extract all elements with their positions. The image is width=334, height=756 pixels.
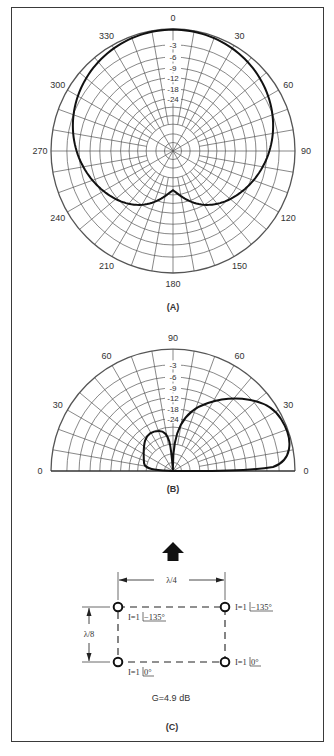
- svg-text:−135°: −135°: [251, 602, 272, 612]
- element-top-right: [221, 603, 230, 612]
- db-label: -18: [167, 85, 179, 94]
- angle-label: 30: [234, 31, 244, 41]
- db-label: -24: [167, 415, 179, 424]
- db-label: -24: [167, 95, 179, 104]
- angle-label: 180: [165, 279, 180, 289]
- horizontal-spacing-label: λ/4: [166, 575, 177, 585]
- angle-label: 240: [50, 213, 65, 223]
- svg-text:I=1: I=1: [235, 657, 247, 667]
- element-top-left: [114, 603, 123, 612]
- figure-canvas: 0306090120150180210240270300330 -3-6-9-1…: [0, 0, 334, 756]
- angle-label: 60: [234, 351, 244, 361]
- element-bottom-left: [114, 658, 123, 667]
- elevation-polar-plot: 030609060300 -3-6-9-12-18-24: [37, 333, 308, 476]
- db-label: -3: [169, 361, 177, 370]
- angle-label: 330: [99, 31, 114, 41]
- db-label: -9: [169, 384, 177, 393]
- svg-text:I=1: I=1: [128, 612, 140, 622]
- db-label: -12: [167, 74, 179, 83]
- db-label: -18: [167, 405, 179, 414]
- svg-text:0°: 0°: [251, 657, 259, 667]
- angle-label: 0: [170, 13, 175, 23]
- angle-label: 120: [281, 213, 296, 223]
- gain-label: G=4.9 dB: [152, 693, 190, 703]
- db-scale-labels: -3-6-9-12-18-24: [165, 40, 181, 103]
- caption-a: (A): [167, 302, 180, 312]
- db-label: -12: [167, 394, 179, 403]
- db-label: -6: [169, 373, 177, 382]
- angle-label: 60: [283, 80, 293, 90]
- angle-label: 0: [303, 466, 308, 476]
- vertical-spacing-label: λ/8: [84, 629, 95, 639]
- angle-label: 90: [301, 146, 311, 156]
- svg-text:I=1: I=1: [128, 667, 140, 677]
- element-label-bottom-right: I=1 0°: [235, 657, 261, 667]
- horizontal-dimension: λ/4: [118, 572, 225, 600]
- angle-label: 270: [32, 146, 47, 156]
- db-label: -9: [169, 64, 177, 73]
- up-arrow-icon: [162, 542, 184, 561]
- element-label-top-left: I=1 −135°: [128, 612, 166, 622]
- svg-text:I=1: I=1: [235, 602, 247, 612]
- db-label: -3: [169, 41, 177, 50]
- azimuth-polar-plot: 0306090120150180210240270300330 -3-6-9-1…: [32, 13, 311, 289]
- angle-label: 60: [101, 351, 111, 361]
- angle-label: 30: [53, 400, 63, 410]
- vertical-dimension: λ/8: [82, 607, 110, 662]
- svg-text:−135°: −135°: [144, 612, 165, 622]
- angle-label: 300: [50, 80, 65, 90]
- db-label: -6: [169, 53, 177, 62]
- svg-text:0°: 0°: [144, 667, 152, 677]
- angle-label: 150: [232, 261, 247, 271]
- element-bottom-right: [221, 658, 230, 667]
- element-label-top-right: I=1 −135°: [235, 602, 273, 612]
- caption-b: (B): [167, 484, 180, 494]
- angle-label: 0: [37, 466, 42, 476]
- angle-label: 30: [283, 400, 293, 410]
- angle-label: 210: [99, 261, 114, 271]
- array-layout-diagram: λ/4 λ/8 I=1 −135° I=1: [82, 542, 273, 703]
- element-label-bottom-left: I=1 0°: [128, 667, 154, 677]
- db-scale-labels: -3-6-9-12-18-24: [165, 360, 181, 423]
- angle-label: 90: [168, 333, 178, 343]
- caption-c: (C): [166, 722, 179, 732]
